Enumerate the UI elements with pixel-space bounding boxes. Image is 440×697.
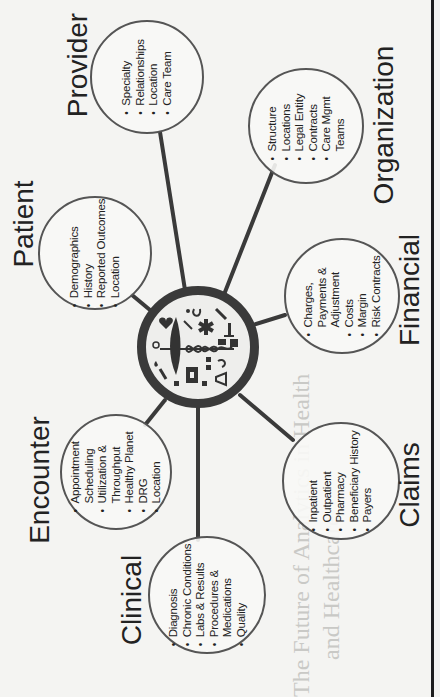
patient-items: Demographics History Reported Outcomes L… [68, 199, 122, 308]
link-claims [240, 395, 293, 440]
node-financial: Charges, Payments & Adjustment Costs Mar… [284, 238, 400, 354]
claims-items: Inpatient Outpatient Pharmacy Beneficiar… [307, 430, 375, 531]
list-item: Charges, Payments & Adjustment [302, 261, 343, 336]
clinical-items: Diagnosis Chronic Conditions Labs & Resu… [167, 544, 248, 647]
list-item: Beneficiary History [348, 430, 362, 531]
label-financial: Financial [394, 234, 426, 346]
list-item: Inpatient [307, 430, 321, 531]
list-item: Location [147, 39, 161, 114]
list-item: Demographics [68, 199, 82, 308]
organization-items: Structure Locations Legal Entity Contrac… [266, 92, 347, 161]
list-item: Procedures & Medications [207, 567, 234, 646]
link-organization [225, 165, 275, 292]
node-claims: Inpatient Outpatient Pharmacy Beneficiar… [282, 422, 400, 540]
node-encounter: Appointment Scheduling Utilization & Thr… [60, 414, 172, 530]
label-encounter: Encounter [24, 416, 56, 544]
list-item: Location [109, 199, 123, 308]
provider-items: Specialty Relationships Location Care Te… [120, 39, 174, 114]
label-patient: Patient [8, 180, 40, 267]
list-item: Risk Contracts [369, 256, 383, 337]
financial-items: Charges, Payments & Adjustment Costs Mar… [302, 256, 383, 337]
list-item: Pharmacy [334, 430, 348, 531]
list-item: Quality [234, 544, 248, 647]
list-item: Costs [342, 256, 356, 337]
list-item: Healthy Planet [123, 432, 137, 513]
list-item: Diagnosis [167, 544, 181, 647]
list-item: Outpatient [321, 430, 335, 531]
encounter-items: Appointment Scheduling Utilization & Thr… [69, 432, 164, 513]
label-organization: Organization [368, 46, 400, 205]
list-item: Utilization & Throughput [96, 442, 123, 513]
list-item: Margin [356, 256, 370, 337]
list-item: Care Team [161, 39, 175, 114]
central-hub [137, 286, 259, 408]
list-item: Reported Outcomes [95, 199, 109, 308]
list-item: Chronic Conditions [180, 544, 194, 647]
list-item: Payers [361, 430, 375, 531]
label-claims: Claims [394, 442, 426, 528]
link-financial [253, 315, 285, 325]
node-organization: Structure Locations Legal Entity Contrac… [248, 68, 364, 184]
list-item: Legal Entity [293, 92, 307, 161]
node-provider: Specialty Relationships Location Care Te… [90, 20, 204, 134]
list-item: Care Mgmt Teams [320, 92, 347, 161]
list-item: Specialty [120, 39, 134, 114]
list-item: DRG [136, 432, 150, 513]
list-item: Location [150, 432, 164, 513]
list-item: Locations [279, 92, 293, 161]
node-patient: Demographics History Reported Outcomes L… [38, 196, 152, 310]
label-provider: Provider [62, 13, 94, 117]
list-item: Contracts [306, 92, 320, 161]
list-item: Labs & Results [194, 544, 208, 647]
list-item: Structure [266, 92, 280, 161]
list-item: Appointment Scheduling [69, 442, 96, 513]
list-item: History [82, 199, 96, 308]
label-clinical: Clinical [116, 555, 148, 645]
link-provider [160, 132, 185, 290]
node-clinical: Diagnosis Chronic Conditions Labs & Resu… [148, 536, 266, 654]
list-item: Relationships [134, 39, 148, 114]
caduceus-medical-icon [146, 295, 250, 399]
link-encounter [145, 400, 165, 425]
